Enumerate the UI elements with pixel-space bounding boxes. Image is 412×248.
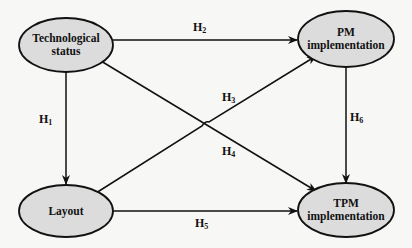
hypothesis-label-h4: H4 [222,144,235,159]
hypothesis-label-h1: H1 [39,112,52,127]
node-label-tpm-implementation: TPM implementation [298,183,394,237]
path-model-diagram: Technological status PM implementation L… [0,0,412,248]
label-line: TPM [307,197,384,210]
hypothesis-label-h3: H3 [222,90,235,105]
hypothesis-label-h2: H2 [193,20,206,35]
label-line: Technological [32,32,99,45]
label-line: PM [307,26,384,39]
edge-h4 [96,58,316,191]
node-label-layout: Layout [19,185,113,237]
label-line: Layout [48,205,83,218]
label-line: implementation [307,210,384,223]
label-line: status [32,45,99,58]
hypothesis-label-h5: H5 [195,216,208,231]
node-label-pm-implementation: PM implementation [298,11,394,67]
hypothesis-label-h6: H6 [350,110,363,125]
label-line: implementation [307,39,384,52]
node-label-technological-status: Technological status [19,18,113,72]
